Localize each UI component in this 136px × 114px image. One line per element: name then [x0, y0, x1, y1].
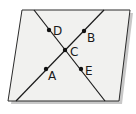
point-label: A [48, 69, 57, 83]
point-label: D [53, 24, 62, 38]
point-dot [82, 29, 86, 33]
point-label: C [70, 45, 78, 59]
point-dot [63, 48, 67, 52]
point-dot [47, 28, 51, 32]
geometry-diagram: DBCAE [0, 0, 136, 114]
point-label: E [85, 64, 93, 78]
point-label: B [87, 31, 95, 45]
point-dot [79, 67, 83, 71]
